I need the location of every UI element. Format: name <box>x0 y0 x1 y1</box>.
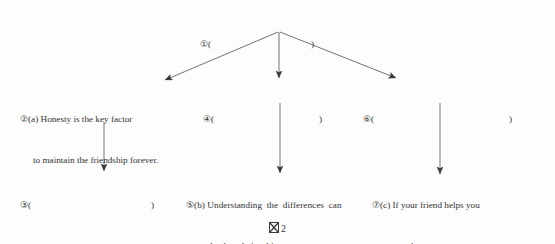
node-5-line-2: make the relationship more mature. <box>186 240 342 244</box>
figure-glyph-icon <box>269 222 279 233</box>
node-4-marker: ④ <box>203 114 211 124</box>
node-6-close-paren: ) <box>509 114 512 124</box>
node-4-close-paren: ) <box>319 114 322 124</box>
node-5-marker: ⑤ <box>186 200 194 210</box>
node-6-blank: ⑥() <box>363 86 512 154</box>
node-7-sub-label: (c) <box>380 200 390 210</box>
node-3-close-paren: ) <box>151 200 154 210</box>
node-4-open-paren: ( <box>211 114 214 124</box>
node-1-open-paren: ( <box>208 39 211 49</box>
node-5-line-1: Understanding the differences can <box>207 200 341 210</box>
node-1-close-paren: ) <box>311 39 314 49</box>
node-2-sub-label: (a) <box>28 114 38 124</box>
node-3-marker: ③ <box>20 200 28 210</box>
node-1-blank: ①() <box>200 11 314 79</box>
node-5-sub-label: (b) <box>194 200 205 210</box>
node-1-marker: ① <box>200 39 208 49</box>
node-2-line-1: Honesty is the key factor <box>41 114 133 124</box>
figure-caption: 2 <box>0 222 555 234</box>
node-6-open-paren: ( <box>371 114 374 124</box>
node-6-marker: ⑥ <box>363 114 371 124</box>
figure-caption-number: 2 <box>281 223 286 234</box>
node-7-line-1: If your friend helps you <box>393 200 480 210</box>
figure-diagram: ①() ②(a) Honesty is the key factor to ma… <box>0 0 555 244</box>
node-7-line-2: even when you are wrong, <box>372 240 511 244</box>
node-3-open-paren: ( <box>28 200 31 210</box>
node-4-blank: ④() <box>203 86 322 154</box>
node-2-line-2: to maintain the friendship forever. <box>20 154 158 168</box>
node-2-marker: ② <box>20 114 28 124</box>
node-7-marker: ⑦ <box>372 200 380 210</box>
